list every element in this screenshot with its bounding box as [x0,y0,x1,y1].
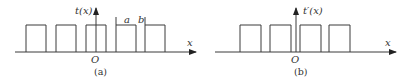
caption-a: (a) [94,66,107,77]
origin-label-a: O [91,54,99,65]
panel-b: t′(x) x O (b) [215,5,396,77]
y-axis-label-a: t(x) [75,5,93,16]
pulse [26,25,46,52]
caption-b: (b) [294,66,308,77]
pulse [56,25,76,52]
pulse [300,25,321,52]
pulse [329,25,350,52]
pulse [240,25,261,52]
pulse [116,25,136,52]
pulse-train-b [240,25,350,52]
dim-a-label: a [124,14,130,25]
figure: a b t(x) x O (a) t′(x) x O (b) [0,0,402,84]
origin-label-b: O [291,54,299,65]
dim-b-label: b [138,14,144,25]
panel-a: a b t(x) x O (a) [15,5,196,77]
pulse [270,25,291,52]
x-axis-label-b: x [385,37,391,48]
x-axis-label-a: x [187,37,193,48]
y-axis-label-b: t′(x) [303,5,323,16]
pulse [145,25,165,52]
